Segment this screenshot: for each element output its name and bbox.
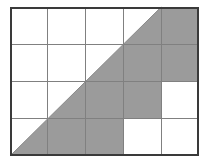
figure-page [0,0,207,164]
grid-diagram-svg [0,0,207,164]
grid-figure [0,0,207,164]
